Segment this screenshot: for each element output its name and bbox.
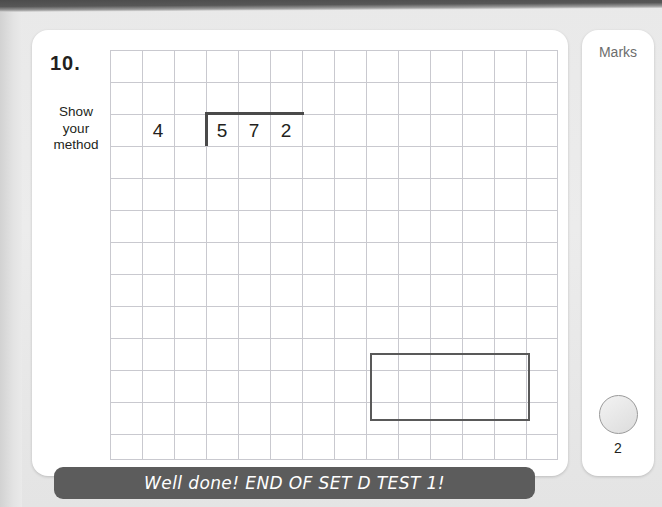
mark-value: 2 bbox=[582, 440, 654, 456]
division-dividend-digit: 7 bbox=[238, 114, 270, 146]
division-dividend-digit: 2 bbox=[270, 114, 302, 146]
answer-box[interactable] bbox=[370, 353, 530, 421]
division-divisor: 4 bbox=[142, 114, 174, 146]
question-card: 10. Showyourmethod 4 5 7 2 bbox=[32, 30, 568, 476]
question-number: 10. bbox=[50, 52, 81, 75]
mark-circle[interactable] bbox=[599, 395, 638, 434]
marks-panel: Marks 2 bbox=[582, 30, 654, 476]
division-dividend-digit: 5 bbox=[206, 114, 238, 146]
marks-panel-title: Marks bbox=[582, 44, 654, 60]
footer-banner-text: Well done! END OF SET D TEST 1! bbox=[144, 473, 445, 493]
show-your-method-label: Showyourmethod bbox=[40, 104, 112, 154]
footer-banner: Well done! END OF SET D TEST 1! bbox=[54, 467, 535, 499]
long-division-working: 4 5 7 2 bbox=[110, 114, 310, 146]
scan-spine-shadow bbox=[0, 10, 22, 507]
